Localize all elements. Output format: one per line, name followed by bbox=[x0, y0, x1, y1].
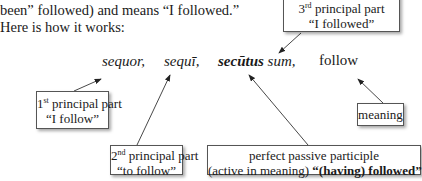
arrow-first-part bbox=[74, 79, 101, 91]
arrow-ppp bbox=[249, 75, 308, 145]
box-second-principal-part: 2nd principal part “to follow” bbox=[110, 145, 183, 175]
word-sum: sum, bbox=[268, 53, 296, 69]
arrow-second-part bbox=[137, 75, 170, 145]
word-second-part: sequī, bbox=[164, 53, 199, 70]
box-meaning: meaning bbox=[357, 103, 404, 126]
box-third-gloss: “I followed” bbox=[284, 16, 399, 31]
box-ppp-title: perfect passive participle bbox=[208, 148, 420, 163]
box-second-title: 2nd principal part bbox=[111, 148, 182, 163]
box-first-principal-part: 1st principal part “I follow” bbox=[36, 91, 109, 129]
word-first-part: sequor, bbox=[102, 53, 145, 70]
box-first-title: 1st principal part bbox=[37, 96, 108, 111]
word-third-part: secūtus sum, bbox=[218, 53, 296, 70]
word-meaning: follow bbox=[319, 52, 358, 69]
box-third-title: 3rd principal part bbox=[284, 1, 399, 16]
box-third-principal-part: 3rd principal part “I followed” bbox=[283, 0, 400, 32]
box-ppp-gloss: (active in meaning) “(having) followed” bbox=[208, 163, 420, 178]
word-ppp: secūtus bbox=[218, 53, 264, 69]
arrow-meaning bbox=[358, 79, 383, 103]
box-second-gloss: “to follow” bbox=[111, 163, 182, 178]
arrow-third-part bbox=[279, 33, 301, 53]
box-perfect-passive-participle: perfect passive participle (active in me… bbox=[207, 145, 421, 175]
box-first-gloss: “I follow” bbox=[37, 111, 108, 126]
